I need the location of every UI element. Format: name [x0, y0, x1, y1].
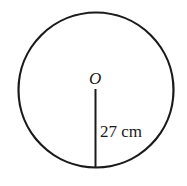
circle-diagram: O 27 cm [0, 0, 187, 186]
center-label: O [89, 69, 101, 88]
radius-label: 27 cm [100, 122, 142, 141]
